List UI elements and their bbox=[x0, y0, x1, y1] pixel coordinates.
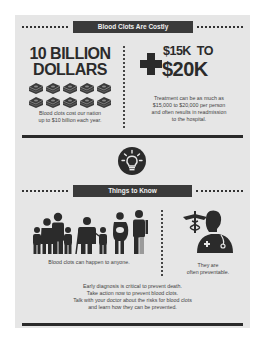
footer-line-1: Early diagnosis is critical to prevent d… bbox=[22, 283, 243, 290]
money-stack-icon bbox=[29, 83, 43, 94]
money-stack-icon bbox=[63, 97, 77, 108]
cost-caption-line2: up to $10 billion each year. bbox=[20, 117, 120, 124]
money-stacks-icon bbox=[27, 81, 111, 109]
header-dotted-line-left bbox=[22, 26, 68, 28]
headline-20k: $20K bbox=[162, 58, 242, 80]
column-divider-2 bbox=[161, 210, 163, 276]
treatment-caption-line1: Treatment can be as much as bbox=[135, 95, 243, 102]
lightbulb-icon bbox=[118, 147, 146, 175]
footer-line-4: and learn how they can be prevented. bbox=[22, 304, 243, 311]
treatment-caption-line2: $15,000 to $20,000 per person bbox=[135, 102, 243, 109]
money-stack-icon bbox=[80, 97, 94, 108]
footer-line-2: Take action now to prevent blood clots. bbox=[22, 290, 243, 297]
preventable-caption-line1: They are bbox=[170, 262, 246, 269]
headline-10-billion: 10 BILLION bbox=[22, 46, 118, 62]
money-stack-icon bbox=[97, 97, 111, 108]
headline-dollars: DOLLARS bbox=[22, 62, 118, 78]
money-stack-icon bbox=[63, 83, 77, 94]
money-stack-icon bbox=[80, 83, 94, 94]
headline-15k-to: $15K TO bbox=[163, 44, 243, 58]
money-stack-icon bbox=[97, 83, 111, 94]
money-stack-icon bbox=[46, 83, 60, 94]
column-divider bbox=[123, 46, 125, 128]
anyone-caption: Blood clots can happen to anyone. bbox=[28, 259, 150, 266]
medical-cross-icon bbox=[140, 53, 162, 75]
doctor-icon bbox=[183, 209, 233, 253]
money-stack-icon bbox=[46, 97, 60, 108]
treatment-caption-line3: and often results in readmission bbox=[135, 109, 243, 116]
bottom-rule bbox=[22, 323, 243, 326]
section-header-costly: Blood Clots Are Costly bbox=[73, 21, 193, 33]
money-stack-icon bbox=[29, 97, 43, 108]
treatment-caption-line4: to the hospital. bbox=[135, 116, 243, 123]
header-dotted-line-right bbox=[197, 26, 243, 28]
cost-caption-line1: Blood clots cost our nation bbox=[20, 110, 120, 117]
header2-dotted-line-right bbox=[196, 190, 243, 192]
section-divider-rule bbox=[22, 135, 243, 138]
footer-line-3: Talk with your doctor about the risks fo… bbox=[22, 297, 243, 304]
header2-dotted-line-left bbox=[22, 190, 68, 192]
preventable-caption-line2: often preventable. bbox=[170, 269, 246, 276]
people-group-icon bbox=[28, 210, 150, 256]
section-header-things-to-know: Things to Know bbox=[73, 185, 192, 197]
